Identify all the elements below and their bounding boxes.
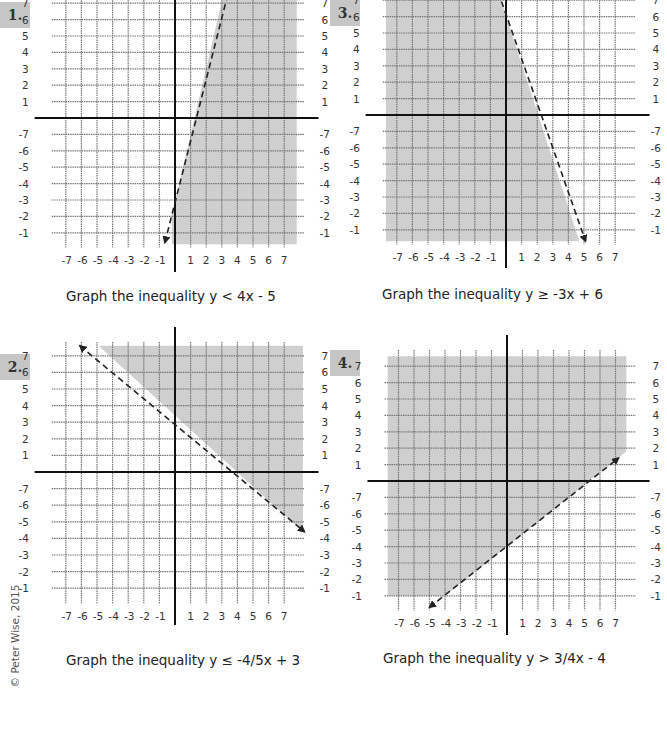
svg-text:-7: -7 [349,125,359,137]
svg-text:-7: -7 [651,491,661,503]
svg-text:5: 5 [250,610,257,622]
svg-text:6: 6 [355,377,362,389]
svg-text:-4: -4 [18,532,29,544]
svg-text:-5: -5 [349,158,359,170]
svg-text:1: 1 [321,96,328,108]
svg-text:5: 5 [321,30,328,42]
svg-text:-1: -1 [351,590,361,602]
problem-1: 1. 77-1-166-2-255-3-344-4-433-5-522-6-61… [0,0,330,320]
svg-text:4: 4 [353,43,360,55]
svg-text:4: 4 [234,610,241,622]
svg-text:5: 5 [652,27,659,39]
svg-text:-3: -3 [320,194,330,206]
svg-text:-5: -5 [651,158,661,170]
svg-text:7: 7 [652,360,659,372]
svg-text:-3: -3 [455,251,465,263]
svg-text:7: 7 [353,0,360,6]
svg-text:-1: -1 [651,590,661,602]
svg-text:5: 5 [22,30,29,42]
svg-text:-2: -2 [349,207,359,219]
svg-text:6: 6 [597,617,604,629]
svg-text:-4: -4 [320,178,330,190]
svg-text:4: 4 [566,617,573,629]
svg-text:-7: -7 [320,128,330,140]
solution-region [386,0,579,241]
svg-text:6: 6 [22,14,29,26]
svg-text:-5: -5 [18,161,28,173]
svg-text:1: 1 [355,459,362,471]
svg-text:-1: -1 [320,582,330,594]
svg-text:1: 1 [518,251,525,263]
svg-text:2: 2 [355,442,362,454]
svg-text:3: 3 [218,254,225,266]
svg-text:-1: -1 [651,224,661,236]
svg-text:7: 7 [612,617,619,629]
svg-text:2: 2 [22,433,29,445]
svg-text:5: 5 [353,27,360,39]
svg-text:1: 1 [652,93,659,105]
svg-text:3: 3 [218,610,225,622]
svg-text:7: 7 [22,0,29,9]
svg-text:7: 7 [321,0,328,9]
svg-text:-2: -2 [18,210,28,222]
svg-text:7: 7 [652,0,659,6]
svg-text:-3: -3 [351,557,361,569]
svg-text:-4: -4 [439,251,450,263]
svg-text:2: 2 [535,617,542,629]
svg-text:1: 1 [22,96,29,108]
problem-caption: Graph the inequality y < 4x - 5 [66,288,276,304]
svg-text:6: 6 [353,11,360,23]
svg-text:5: 5 [581,251,588,263]
problem-4: 4. 77-1-166-2-255-3-344-4-433-5-522-6-61… [330,320,667,700]
svg-text:3: 3 [652,60,659,72]
svg-text:-5: -5 [425,617,435,629]
svg-text:-1: -1 [155,610,165,622]
svg-text:-2: -2 [651,207,661,219]
svg-text:-5: -5 [320,516,330,528]
solution-region [99,346,303,529]
svg-text:-7: -7 [320,483,330,495]
svg-text:-4: -4 [651,541,662,553]
svg-text:-7: -7 [351,491,361,503]
svg-text:5: 5 [22,383,29,395]
svg-text:-6: -6 [408,251,419,263]
svg-text:-2: -2 [320,566,330,578]
svg-text:6: 6 [22,366,29,378]
svg-text:-6: -6 [77,254,88,266]
svg-text:6: 6 [321,366,328,378]
svg-text:6: 6 [652,377,659,389]
copyright-notice: © Peter Wise, 2015 [9,581,21,691]
svg-text:6: 6 [265,610,272,622]
svg-text:-6: -6 [18,499,29,511]
svg-text:3: 3 [22,63,29,75]
svg-text:-4: -4 [351,541,362,553]
svg-text:4: 4 [22,400,29,412]
svg-text:-7: -7 [393,251,403,263]
svg-text:-7: -7 [18,483,28,495]
svg-text:-3: -3 [124,254,134,266]
svg-text:5: 5 [652,393,659,405]
svg-text:1: 1 [353,93,360,105]
svg-text:3: 3 [321,63,328,75]
svg-text:1: 1 [22,449,29,461]
svg-text:-6: -6 [18,145,29,157]
svg-text:-1: -1 [349,224,359,236]
svg-text:-7: -7 [651,125,661,137]
svg-text:2: 2 [203,610,210,622]
svg-text:-1: -1 [18,227,28,239]
svg-text:-4: -4 [108,610,119,622]
svg-text:-5: -5 [93,254,103,266]
svg-text:-6: -6 [320,499,330,511]
svg-text:3: 3 [22,416,29,428]
svg-text:-2: -2 [351,573,361,585]
svg-text:-2: -2 [18,566,28,578]
svg-text:5: 5 [355,393,362,405]
svg-text:-4: -4 [441,617,452,629]
svg-text:2: 2 [534,251,541,263]
graph-2: 77-1-166-2-255-3-344-4-433-5-522-6-611-7… [0,320,330,640]
svg-text:-1: -1 [320,227,330,239]
svg-text:7: 7 [281,610,288,622]
problem-caption: Graph the inequality y > 3/4x - 4 [383,650,606,666]
svg-text:-4: -4 [108,254,119,266]
svg-text:5: 5 [250,254,257,266]
